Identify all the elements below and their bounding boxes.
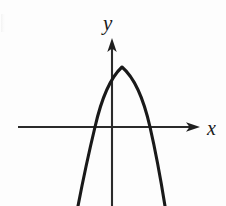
parabola-curve — [78, 67, 165, 206]
y-axis-label: y — [103, 13, 112, 34]
axes-group — [18, 38, 200, 206]
parabola-figure: y x — [0, 0, 226, 206]
figure-canvas — [0, 0, 226, 206]
x-axis-label: x — [207, 118, 216, 138]
parabola-group — [78, 67, 165, 206]
